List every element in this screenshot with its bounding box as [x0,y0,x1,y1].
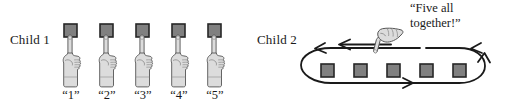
count-label: “2” [96,88,118,102]
counting-figure: Child 1 [0,0,507,111]
count-label: “5” [204,88,226,102]
child2-object-row [321,64,466,77]
pointing-hand-icon [207,35,224,87]
object-square [387,64,400,77]
child2-panel: Child 2 “Five all together!” [253,0,507,111]
count-label: “3” [132,88,154,102]
object-square [321,64,334,77]
child1-hand-row [63,35,224,87]
object-square [354,64,367,77]
sweeping-hand-icon [367,20,403,60]
child2-illustration [253,0,507,111]
child1-count-labels: “1” “2” “3” “4” “5” [60,88,226,102]
object-square [453,64,466,77]
pointing-hand-icon [63,35,80,87]
count-label: “1” [60,88,82,102]
pointing-hand-icon [99,35,116,87]
child1-panel: Child 1 [0,0,254,111]
object-square [420,64,433,77]
arrowhead-left [471,43,482,53]
pointing-hand-icon [135,35,152,87]
pointing-hand-icon [171,35,188,87]
count-label: “4” [168,88,190,102]
